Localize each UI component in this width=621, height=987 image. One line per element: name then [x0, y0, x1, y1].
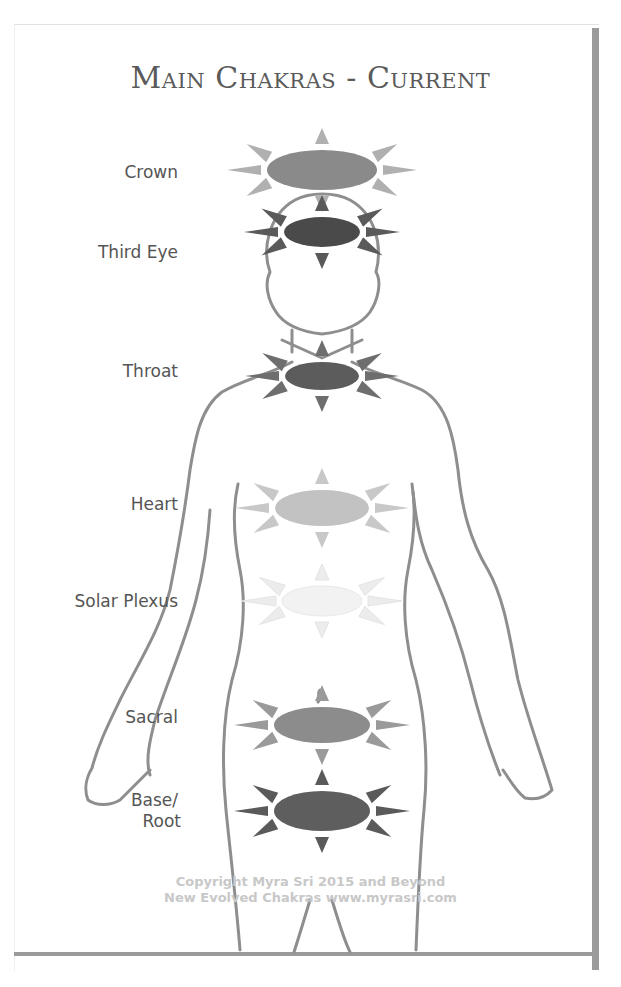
chakra-solar-plexus-icon [242, 564, 402, 638]
copyright-notice: Copyright Myra Sri 2015 and Beyond New E… [0, 874, 621, 906]
copyright-line-1: Copyright Myra Sri 2015 and Beyond [0, 874, 621, 890]
label-base-root-line2: Root [0, 811, 181, 832]
chakra-heart-icon [235, 468, 409, 548]
label-sacral: Sacral [0, 707, 178, 728]
label-solar-plexus: Solar Plexus [0, 591, 178, 612]
chakra-layer [227, 128, 417, 853]
chakra-throat-icon [245, 340, 399, 412]
label-base-root-line1: Base/ [0, 790, 178, 811]
label-third-eye: Third Eye [0, 242, 178, 263]
label-heart: Heart [0, 494, 178, 515]
copyright-line-2: New Evolved Chakras www.myrasri.com [0, 890, 621, 906]
label-throat: Throat [0, 361, 178, 382]
chakra-base-root-icon [234, 769, 410, 853]
chakra-sacral-icon [234, 685, 410, 765]
label-crown: Crown [0, 162, 178, 183]
